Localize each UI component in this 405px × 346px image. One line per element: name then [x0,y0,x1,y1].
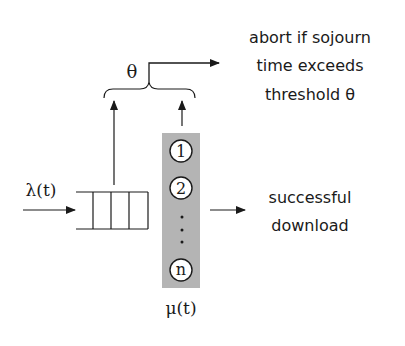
abort-arrow [149,63,219,82]
threshold-label: θ [127,61,138,82]
abort-text-line-3: threshold θ [265,85,355,104]
server-2: 2 [170,177,192,199]
success-text-line-1: successful [269,188,352,207]
curly-brace [104,82,195,98]
queue-buffer [76,192,148,229]
success-text-line-2: download [271,216,348,235]
server-n: n [170,259,192,281]
arrival-rate-label: λ(t) [26,180,57,200]
server-n-label: n [176,260,186,279]
service-rate-label: μ(t) [165,298,196,318]
server-2-label: 2 [176,179,186,198]
queue-diagram: abort if sojourn time exceeds threshold … [0,0,405,346]
abort-text-line-1: abort if sojourn [249,28,371,47]
abort-text-line-2: time exceeds [257,56,364,75]
abort-annotation: abort if sojourn time exceeds threshold … [249,28,371,104]
server-1-label: 1 [176,142,186,161]
server-1: 1 [170,140,192,162]
success-annotation: successful download [269,188,352,235]
